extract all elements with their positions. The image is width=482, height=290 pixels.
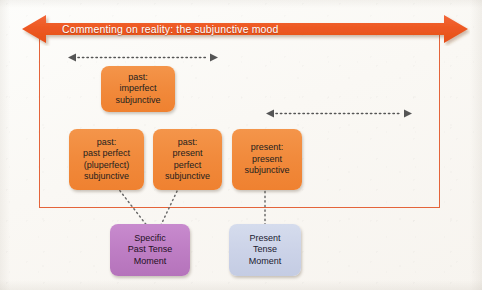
node-line: imperfect	[119, 83, 156, 95]
node-line: perfect	[174, 160, 202, 172]
node-line: Moment	[134, 256, 167, 268]
node-line: past:	[178, 137, 198, 149]
node-line: present	[172, 148, 202, 160]
node-present-present-subjunctive[interactable]: present: present subjunctive	[232, 129, 302, 190]
diagram-canvas: Commenting on reality: the subjunctive m…	[0, 0, 482, 290]
node-line: subjunctive	[244, 165, 289, 177]
node-present-tense-moment[interactable]: Present Tense Moment	[229, 224, 301, 276]
node-past-past-perfect-subjunctive[interactable]: past: past perfect (pluperfect) subjunct…	[69, 129, 144, 190]
node-line: Present	[249, 233, 280, 245]
node-line: Tense	[253, 244, 277, 256]
node-line: subjunctive	[165, 171, 210, 183]
node-line: Moment	[249, 256, 282, 268]
node-line: Past Tense	[128, 244, 172, 256]
node-line: Specific	[134, 233, 166, 245]
banner-arrow-icon	[20, 12, 470, 46]
node-specific-past-tense-moment[interactable]: Specific Past Tense Moment	[110, 224, 190, 276]
node-line: subjunctive	[84, 171, 129, 183]
node-line: past perfect	[83, 148, 130, 160]
dotted-double-arrow-icon	[266, 108, 412, 119]
node-line: past:	[128, 72, 148, 84]
node-line: subjunctive	[115, 95, 160, 107]
present-span-arrow	[266, 108, 412, 119]
dotted-double-arrow-icon	[68, 52, 218, 63]
node-line: past:	[97, 137, 117, 149]
node-past-imperfect-subjunctive[interactable]: past: imperfect subjunctive	[101, 66, 175, 112]
node-line: present	[252, 154, 282, 166]
node-past-present-perfect-subjunctive[interactable]: past: present perfect subjunctive	[153, 129, 222, 190]
node-line: present:	[251, 142, 284, 154]
title-banner-arrow: Commenting on reality: the subjunctive m…	[20, 12, 470, 46]
node-line: (pluperfect)	[84, 160, 130, 172]
past-span-arrow	[68, 52, 218, 63]
